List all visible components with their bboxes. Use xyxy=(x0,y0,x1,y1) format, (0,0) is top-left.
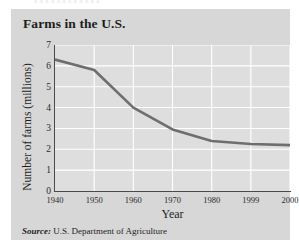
plot-svg xyxy=(55,45,290,191)
gridlines-vertical xyxy=(94,45,290,191)
y-tick-label: 1 xyxy=(46,165,51,175)
x-tick-label: 1970 xyxy=(164,195,181,205)
y-axis-line xyxy=(54,45,55,192)
source-note: Source: U.S. Department of Agriculture xyxy=(22,226,167,236)
x-tick-label: 1950 xyxy=(86,195,103,205)
figure-panel: Farms in the U.S. Number of farms (milli… xyxy=(11,9,290,240)
chart-title: Farms in the U.S. xyxy=(23,16,126,32)
y-tick-label: 4 xyxy=(46,103,51,113)
y-axis-title: Number of farms (millions) xyxy=(20,54,34,200)
source-text: U.S. Department of Agriculture xyxy=(53,226,167,236)
y-axis-title-label: Number of farms (millions) xyxy=(20,54,34,200)
source-label: Source: xyxy=(22,226,51,236)
y-tick-label: 7 xyxy=(46,40,51,50)
x-tick-label: 1999 xyxy=(242,195,259,205)
clipped-top-text: a a a a a a a a a a a a xyxy=(34,0,174,5)
x-tick-label: 1960 xyxy=(125,195,142,205)
y-tick-label: 3 xyxy=(46,123,51,133)
y-tick-label: 6 xyxy=(46,61,51,71)
y-tick-label: 2 xyxy=(46,144,51,154)
x-tick-label: 1980 xyxy=(203,195,220,205)
plot-area xyxy=(55,45,290,191)
x-axis-line xyxy=(54,191,291,192)
x-tick-label: 2000 xyxy=(282,195,299,205)
x-tick-label: 1940 xyxy=(47,195,64,205)
y-tick-label: 5 xyxy=(46,82,51,92)
plot-wrap: 01234567 1940195019601970198019992000 xyxy=(55,45,290,191)
x-axis-title: Year xyxy=(55,207,290,222)
